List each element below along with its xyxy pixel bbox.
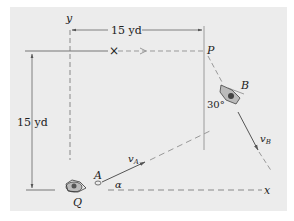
angle-b-label: 30° [207, 99, 225, 110]
point-p-label: P [206, 44, 215, 57]
x-axis-label: x [264, 184, 271, 197]
cross-marker: × [109, 44, 119, 58]
velocity-a-label: vA [128, 153, 139, 166]
dim-horizontal-label: 15 yd [111, 24, 142, 37]
point-b-label: B [240, 79, 249, 92]
angle-alpha-label: α [115, 179, 122, 190]
point-a-label: A [93, 169, 102, 182]
y-axis-label: y [65, 12, 73, 25]
velocity-b-label: vB [260, 133, 271, 146]
path-a-dashed [150, 130, 212, 160]
path-b-dashed [259, 152, 272, 172]
point-q-label: Q [73, 196, 82, 209]
player-q-icon [66, 180, 86, 192]
dim-vertical-label: 15 yd [17, 116, 48, 129]
path-p-b [208, 56, 222, 82]
football-diagram: × y x 15 yd 15 yd P B A Q 30° α vA vB [0, 0, 294, 221]
velocity-b-arrow [238, 112, 258, 150]
